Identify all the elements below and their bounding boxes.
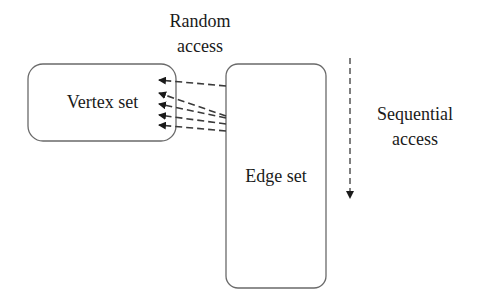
random-access-label: Random access	[150, 9, 250, 59]
sequential-access-label: Sequential access	[365, 102, 465, 152]
sequential-access-line2: access	[365, 127, 465, 152]
random-access-line1: Random	[150, 9, 250, 34]
random-access-line2: access	[150, 34, 250, 59]
edge-set-label: Edge set	[226, 164, 326, 189]
sequential-access-line1: Sequential	[365, 102, 465, 127]
vertex-set-label: Vertex set	[50, 90, 155, 115]
